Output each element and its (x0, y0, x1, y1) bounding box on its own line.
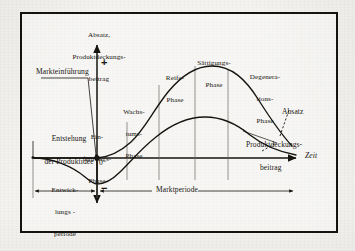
y-axis-title-line3: beitrag (59, 76, 139, 83)
phase-degeneration-line2: tions- (239, 96, 291, 103)
phase-saettigung-line2: Phase (186, 82, 242, 89)
phase-wachstum-line1: Wachs- (114, 109, 154, 116)
phase-saettigung-line1: Sättigungs- (186, 60, 242, 67)
annotation-entwicklungsperiode: Entwick- lungs - periode (39, 173, 91, 245)
y-axis-positive-sign: + (101, 57, 108, 68)
phase-wachstum-line2: tums- (114, 131, 154, 138)
phase-degeneration-line3: Phase (239, 118, 291, 125)
phase-label-wachstum: Wachs- tums- Phase (114, 95, 154, 167)
phase-label-degeneration: Degenera- tions- Phase (239, 60, 291, 132)
phase-reife-line2: Phase (157, 97, 193, 104)
phase-wachstum-line3: Phase (114, 153, 154, 160)
y-axis-title: Absatz, Produktdeckungs- beitrag (59, 18, 139, 90)
phase-einfuehrung-line2: führungs- (75, 156, 119, 163)
entwicklung-line3: periode (39, 231, 91, 238)
curve-label-absatz: Absatz (282, 108, 303, 116)
y-axis-title-line1: Absatz, (59, 32, 139, 39)
entwicklung-line1: Entwick- (39, 187, 91, 194)
pdb-label-line2: beitrag (246, 164, 330, 172)
phase-einfuehrung-line1: Ein- (75, 134, 119, 141)
y-axis-title-line2: Produktdeckungs- (59, 54, 139, 61)
pdb-label-line1: Produktdeckungs- (246, 141, 330, 149)
phase-degeneration-line1: Degenera- (239, 74, 291, 81)
phase-label-saettigung: Sättigungs- Phase (186, 46, 242, 97)
curve-label-produktdeckungsbeitrag: Produktdeckungs- beitrag (246, 126, 330, 179)
annotation-marktperiode: Marktperiode (155, 186, 199, 194)
entwicklung-line2: lungs - (39, 209, 91, 216)
annotation-markteinfuehrung: Markteinführung (36, 68, 89, 76)
